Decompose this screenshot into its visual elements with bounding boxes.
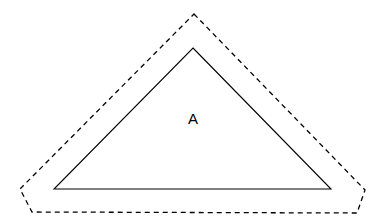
diagram-canvas: A bbox=[0, 0, 388, 224]
triangle-label: A bbox=[188, 110, 198, 127]
